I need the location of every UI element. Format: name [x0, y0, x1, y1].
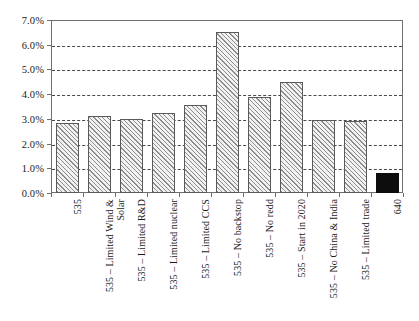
x-tick-mark: [83, 193, 84, 197]
x-tick-label: 535 – Limited nuclear: [168, 199, 179, 319]
x-tick-mark: [307, 193, 308, 197]
bar: [280, 82, 303, 193]
x-tick-label: 535 – Start in 2020: [296, 199, 307, 319]
x-axis-labels: 535535 – Limited Wind & Solar535 – Limit…: [51, 199, 403, 321]
x-tick-mark: [115, 193, 116, 197]
bar-series: [51, 20, 403, 193]
y-tick-label: 2.0%: [22, 138, 44, 149]
x-tick-mark: [147, 193, 148, 197]
x-tick-mark: [371, 193, 372, 197]
bar-chart: 0.0%1.0%2.0%3.0%4.0%5.0%6.0%7.0% 535535 …: [0, 0, 419, 321]
y-axis: 0.0%1.0%2.0%3.0%4.0%5.0%6.0%7.0%: [0, 0, 51, 214]
x-tick-mark: [243, 193, 244, 197]
x-tick-mark: [211, 193, 212, 197]
x-tick-mark: [403, 193, 404, 197]
x-axis-ticks: [51, 193, 403, 198]
x-tick-label: 535 – No backstop: [232, 199, 243, 319]
x-tick-label: 640: [392, 199, 403, 319]
y-tick-label: 7.0%: [22, 15, 44, 26]
x-tick-label: 535 – Limited trade: [360, 199, 371, 319]
bar: [56, 123, 79, 193]
bar: [344, 121, 367, 193]
bar: [88, 116, 111, 193]
x-tick-label: 535 – Limited CCS: [200, 199, 211, 319]
bar: [312, 120, 335, 193]
bar: [216, 32, 239, 193]
bar: [120, 119, 143, 193]
x-tick-mark: [179, 193, 180, 197]
y-tick-label: 3.0%: [22, 113, 44, 124]
x-tick-label: 535: [72, 199, 83, 319]
x-tick-label: 535 – Limited R&D: [136, 199, 147, 319]
x-tick-label: 535 – Limited Wind & Solar: [104, 199, 126, 319]
y-tick-label: 5.0%: [22, 64, 44, 75]
y-tick-label: 1.0%: [22, 163, 44, 174]
y-tick-label: 0.0%: [22, 188, 44, 199]
y-tick-label: 4.0%: [22, 89, 44, 100]
bar: [152, 113, 175, 193]
bar: [184, 105, 207, 193]
x-tick-label: 535 – No redd: [264, 199, 275, 319]
x-tick-mark: [275, 193, 276, 197]
y-tick-label: 6.0%: [22, 39, 44, 50]
x-tick-label: 535 – No China & India: [328, 199, 339, 319]
bar: [248, 97, 271, 193]
x-tick-mark: [339, 193, 340, 197]
x-tick-mark: [51, 193, 52, 197]
bar: [376, 173, 399, 193]
